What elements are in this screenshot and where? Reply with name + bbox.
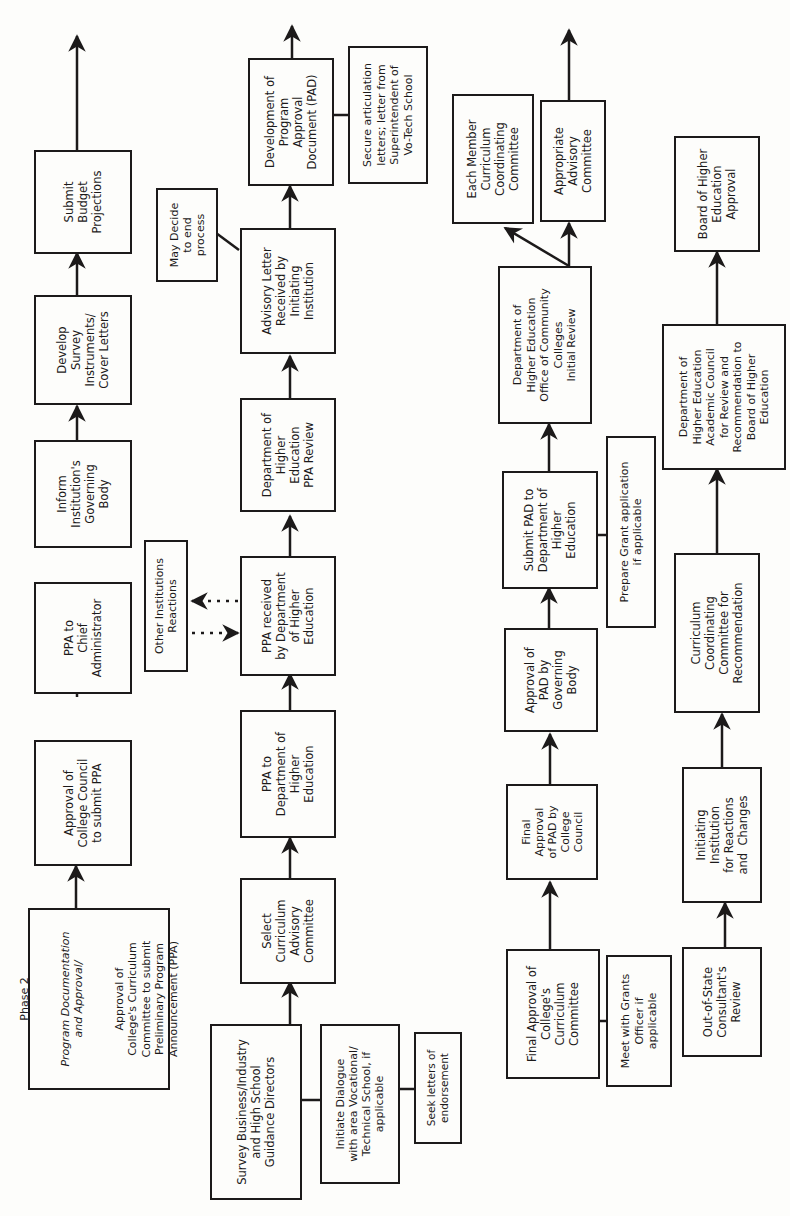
box-develop-survey-instruments: Develop Survey Instruments/ Cover Letter… [34, 295, 132, 405]
box-label: Seek letters of endorsement [425, 1050, 451, 1126]
box-label: Submit PAD to Department of Higher Educa… [522, 488, 578, 572]
box-label: Initiating Institution for Reactions and… [694, 796, 750, 875]
box-other-institutions-reactions: Other Institutions Reactions [144, 540, 188, 672]
box-ppa-to-chief-administrator: PPA to Chief Administrator [34, 582, 132, 694]
box-label: PPA to Department of Higher Education [260, 732, 316, 816]
box-label: Prepare Grant application if applicable [618, 461, 644, 602]
box-board-higher-education-approval: Board of Higher Education Approval [674, 136, 760, 252]
box-secure-articulation-letters: Secure articulation letters; letter from… [348, 46, 428, 184]
box-office-community-colleges-review: Department of Higher Education Office of… [498, 266, 592, 424]
box-label: Board of Higher Education Approval [696, 149, 738, 239]
box-label: Inform Institution's Governing Body [55, 460, 111, 527]
box-meet-grants-officer: Meet with Grants Officer if applicable [606, 955, 672, 1087]
box-seek-letters-endorsement: Seek letters of endorsement [414, 1032, 462, 1144]
box-label: Final Approval of College's Curriculum C… [525, 966, 581, 1062]
box-inform-governing-body: Inform Institution's Governing Body [34, 440, 132, 548]
box-initiate-dialogue-vocational: Initiate Dialogue with area Vocational/ … [320, 1024, 400, 1184]
box-ppa-to-dept-higher-ed: PPA to Department of Higher Education [240, 710, 336, 838]
box-final-approval-curriculum-committee: Final Approval of College's Curriculum C… [506, 949, 600, 1079]
box-select-curriculum-advisory-committee: Select Curriculum Advisory Committee [240, 878, 336, 984]
box-may-decide-end-process: May Decide to end process [156, 188, 218, 282]
box-label: Development of Program Approval Document… [263, 74, 319, 169]
box-label: Approval of College's Curriculum Committ… [113, 931, 181, 1066]
box-final-approval-pad-council: Final Approval of PAD by College Council [506, 784, 598, 880]
box-submit-budget-projections: Submit Budget Projections [34, 150, 132, 254]
box-college-council-approval: Approval of College Council to submit PP… [34, 740, 132, 866]
phase-subtitle: Program Documentation and Approval/ [59, 931, 86, 1066]
box-label: PPA received by Department of Higher Edu… [260, 572, 316, 659]
box-label: Out-of-State Consultant's Review [701, 966, 743, 1037]
box-out-of-state-consultant-review: Out-of-State Consultant's Review [682, 947, 762, 1057]
box-label: Initiate Dialogue with area Vocational/ … [334, 1046, 386, 1162]
box-each-member-coordinating-committee: Each Member Curriculum Coordinating Comm… [452, 94, 534, 224]
box-development-pad: Development of Program Approval Document… [248, 58, 334, 186]
box-label: Meet with Grants Officer if applicable [619, 974, 660, 1068]
arrow-b18-b19 [505, 228, 569, 266]
box-approval-pad-governing-body: Approval of PAD by Governing Body [504, 628, 598, 732]
box-label: Other Institutions Reactions [153, 558, 179, 654]
box-submit-pad-to-dept: Submit PAD to Department of Higher Educa… [502, 471, 598, 589]
box-label: Curriculum Coordinating Committee for Re… [689, 582, 745, 683]
phase-heading: Phase 2 [18, 931, 32, 1066]
box-ppa-received-by-dept: PPA received by Department of Higher Edu… [240, 556, 336, 676]
box-label: Appropriate Advisory Committee [552, 127, 594, 195]
box-academic-council-review: Department of Higher Education Academic … [662, 324, 786, 470]
box-prepare-grant-application: Prepare Grant application if applicable [606, 436, 656, 628]
box-label: Department of Higher Education PPA Revie… [260, 413, 316, 497]
box-appropriate-advisory-committee: Appropriate Advisory Committee [540, 100, 606, 222]
box-label: Select Curriculum Advisory Committee [260, 899, 316, 963]
box-label: Approval of College Council to submit PP… [62, 759, 104, 848]
box-label: Survey Business/Industry and High School… [235, 1039, 277, 1185]
box-label: Approval of PAD by Governing Body [523, 647, 579, 713]
box-label: Each Member Curriculum Coordinating Comm… [465, 120, 521, 199]
box-label: Secure articulation letters; letter from… [361, 63, 415, 167]
box-initiating-institution-reactions: Initiating Institution for Reactions and… [682, 767, 762, 903]
box-phase2-curriculum-committee-approval: Phase 2 Program Documentation and Approv… [28, 908, 170, 1090]
box-label: Department of Higher Education Office of… [511, 288, 579, 401]
box-label: Develop Survey Instruments/ Cover Letter… [55, 311, 111, 388]
box-survey-business-industry: Survey Business/Industry and High School… [210, 1024, 302, 1200]
box-label: PPA to Chief Administrator [62, 599, 104, 677]
box-curriculum-coordinating-recommendation: Curriculum Coordinating Committee for Re… [674, 553, 760, 713]
box-advisory-letter-received: Advisory Letter Received by Initiating I… [240, 228, 336, 354]
box-label: Department of Higher Education Academic … [677, 341, 772, 452]
box-label: Advisory Letter Received by Initiating I… [260, 247, 316, 334]
box-label: May Decide to end process [168, 203, 207, 267]
box-dept-ppa-review: Department of Higher Education PPA Revie… [240, 398, 336, 512]
box-label: Final Approval of PAD by College Council [520, 805, 585, 858]
box-label: Submit Budget Projections [62, 171, 104, 234]
